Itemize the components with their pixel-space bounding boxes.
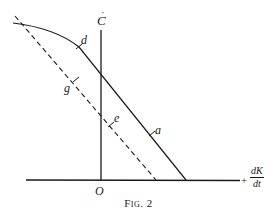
x-axis-sign: + [241, 175, 247, 186]
diagram-canvas [0, 0, 277, 216]
origin-label: O [95, 185, 104, 197]
tick-g [73, 77, 79, 82]
figure-caption: Fig. 2 [0, 197, 277, 209]
label-d: d [81, 34, 87, 46]
x-axis-label-numerator: dK [250, 166, 264, 178]
figure-2: ˙ C O d g e a + dK dt Fig. 2 [0, 0, 277, 216]
x-axis-label: dK dt [250, 166, 264, 189]
x-axis-label-denominator: dt [253, 178, 261, 189]
x-axis [26, 180, 240, 181]
label-g: g [64, 82, 70, 94]
solid-curve [13, 23, 186, 180]
label-a: a [155, 124, 161, 136]
y-axis-label-accent: ˙ [101, 10, 105, 21]
y-axis-label: ˙ C [97, 14, 106, 27]
label-e: e [114, 112, 119, 124]
